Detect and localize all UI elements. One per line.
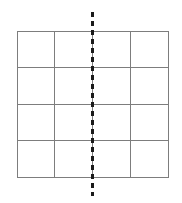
symmetry-line-svg bbox=[91, 12, 94, 196]
grid-cell bbox=[93, 31, 131, 68]
grid-cell bbox=[55, 31, 93, 68]
grid-cell bbox=[55, 105, 93, 142]
grid-cell bbox=[93, 141, 131, 178]
grid-cell bbox=[55, 68, 93, 105]
grid-cell bbox=[93, 105, 131, 142]
symmetry-line-dashed bbox=[91, 12, 94, 196]
grid-cell bbox=[17, 31, 55, 68]
figure-root bbox=[0, 0, 182, 203]
grid-cell bbox=[93, 68, 131, 105]
grid-cell bbox=[131, 31, 169, 68]
grid-cell bbox=[131, 68, 169, 105]
grid-cell bbox=[17, 105, 55, 142]
grid-cell bbox=[17, 68, 55, 105]
grid-cell bbox=[55, 141, 93, 178]
grid-cell bbox=[131, 141, 169, 178]
grid-cell bbox=[17, 141, 55, 178]
grid-cell bbox=[131, 105, 169, 142]
